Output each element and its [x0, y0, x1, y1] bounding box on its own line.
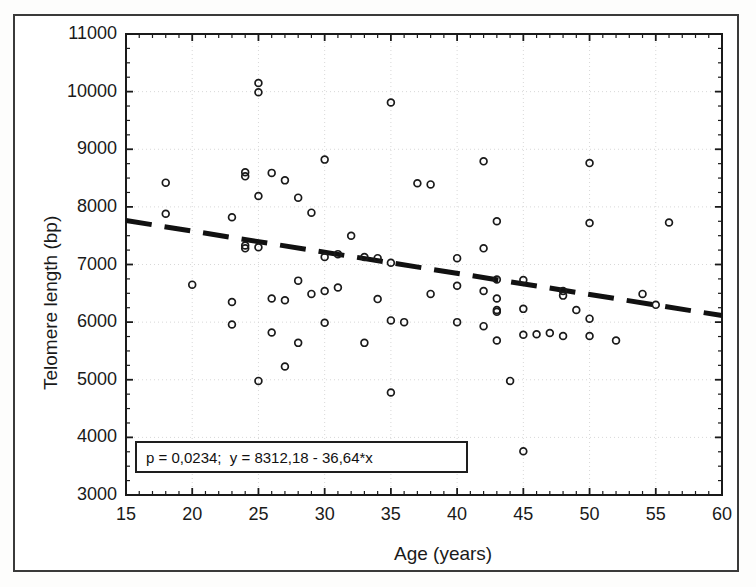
data-point	[282, 177, 289, 184]
data-point	[586, 160, 593, 167]
data-point	[348, 232, 355, 239]
plot-frame	[126, 34, 722, 495]
y-tick-label: 9000	[77, 138, 117, 159]
data-point	[229, 214, 236, 221]
data-point	[335, 284, 342, 291]
data-point	[295, 194, 302, 201]
data-point	[229, 321, 236, 328]
data-point	[493, 218, 500, 225]
x-tick-label: 45	[498, 504, 548, 525]
x-tick-label: 30	[300, 504, 350, 525]
y-tick-label: 11000	[68, 23, 117, 44]
data-point	[361, 339, 368, 346]
x-tick-label: 60	[697, 504, 747, 525]
data-point	[321, 288, 328, 295]
data-point	[282, 363, 289, 370]
data-point	[162, 179, 169, 186]
data-point	[493, 295, 500, 302]
data-point	[480, 158, 487, 165]
data-point	[295, 277, 302, 284]
x-tick-label: 25	[233, 504, 283, 525]
data-point	[282, 297, 289, 304]
y-tick-label: 3000	[77, 484, 117, 505]
data-point	[308, 209, 315, 216]
y-tick-label: 7000	[77, 254, 117, 275]
data-point	[493, 337, 500, 344]
data-point	[520, 448, 527, 455]
x-tick-label: 20	[167, 504, 217, 525]
data-point	[560, 292, 567, 299]
y-tick-label: 5000	[77, 369, 117, 390]
axis-ticks	[126, 34, 722, 495]
data-point	[255, 244, 262, 251]
data-point	[546, 330, 553, 337]
regression-line	[126, 221, 722, 316]
y-tick-label: 10000	[67, 81, 117, 102]
y-axis-title: Telomere length (bp)	[40, 216, 62, 390]
data-point	[308, 290, 315, 297]
grid-lines	[126, 34, 722, 495]
data-point	[586, 220, 593, 227]
data-point	[268, 169, 275, 176]
x-tick-label: 35	[366, 504, 416, 525]
data-point	[454, 282, 461, 289]
regression-annotation-box: p = 0,0234; y = 8312,18 - 36,64*x	[135, 441, 468, 473]
data-point	[295, 339, 302, 346]
data-point	[480, 288, 487, 295]
data-point	[374, 296, 381, 303]
x-axis-title: Age (years)	[394, 543, 492, 565]
x-tick-label: 40	[432, 504, 482, 525]
figure-container: Telomere length (bp) Age (years) 3000400…	[0, 0, 756, 587]
data-point	[268, 329, 275, 336]
data-point	[560, 333, 567, 340]
y-tick-label: 8000	[77, 196, 117, 217]
y-tick-label: 4000	[77, 426, 117, 447]
data-point	[162, 210, 169, 217]
data-point	[666, 219, 673, 226]
data-point	[613, 337, 620, 344]
data-point	[414, 180, 421, 187]
data-point	[533, 331, 540, 338]
data-point	[480, 245, 487, 252]
data-point	[427, 290, 434, 297]
data-point	[229, 299, 236, 306]
x-tick-label: 55	[631, 504, 681, 525]
x-tick-label: 50	[565, 504, 615, 525]
data-point	[427, 181, 434, 188]
y-tick-label: 6000	[77, 311, 117, 332]
data-point	[639, 290, 646, 297]
regression-annotation-text: p = 0,0234; y = 8312,18 - 36,64*x	[137, 449, 373, 466]
data-point	[268, 295, 275, 302]
data-point	[507, 378, 514, 385]
data-point	[480, 323, 487, 330]
data-point	[573, 307, 580, 314]
x-tick-label: 15	[101, 504, 151, 525]
